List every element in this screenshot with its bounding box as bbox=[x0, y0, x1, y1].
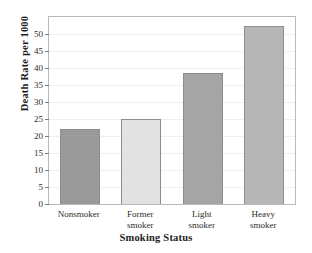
y-tick-label: 50 bbox=[34, 30, 43, 39]
y-tick-mark bbox=[45, 34, 49, 35]
y-tick-mark bbox=[45, 85, 49, 86]
y-tick-label: 20 bbox=[34, 132, 43, 141]
y-tick-label: 45 bbox=[34, 47, 43, 56]
x-tick-label: Formersmoker bbox=[110, 209, 172, 230]
plot-area: 05101520253035404550 bbox=[48, 16, 296, 205]
y-tick-mark bbox=[45, 187, 49, 188]
y-tick-label: 40 bbox=[34, 64, 43, 73]
y-tick-mark bbox=[45, 153, 49, 154]
y-tick-mark bbox=[45, 204, 49, 205]
bar bbox=[60, 129, 100, 204]
y-tick-mark bbox=[45, 170, 49, 171]
bar bbox=[121, 119, 161, 204]
y-tick-mark bbox=[45, 51, 49, 52]
x-tick-label: Lightsmoker bbox=[171, 209, 233, 230]
x-tick-label: Heavysmoker bbox=[233, 209, 295, 230]
y-tick-label: 25 bbox=[34, 115, 43, 124]
x-axis-title: Smoking Status bbox=[0, 232, 312, 243]
y-tick-mark bbox=[45, 68, 49, 69]
y-tick-mark bbox=[45, 102, 49, 103]
y-tick-label: 15 bbox=[34, 149, 43, 158]
y-tick-label: 5 bbox=[39, 183, 44, 192]
y-tick-label: 30 bbox=[34, 98, 43, 107]
y-tick-label: 10 bbox=[34, 166, 43, 175]
y-tick-mark bbox=[45, 136, 49, 137]
bar bbox=[183, 73, 223, 204]
bar bbox=[244, 26, 284, 205]
chart-figure: Death Rate per 1000 05101520253035404550… bbox=[0, 0, 312, 253]
y-tick-label: 35 bbox=[34, 81, 43, 90]
y-tick-mark bbox=[45, 119, 49, 120]
x-tick-label: Nonsmoker bbox=[48, 209, 110, 220]
y-tick-label: 0 bbox=[39, 200, 44, 209]
y-axis-title: Death Rate per 1000 bbox=[19, 0, 30, 144]
